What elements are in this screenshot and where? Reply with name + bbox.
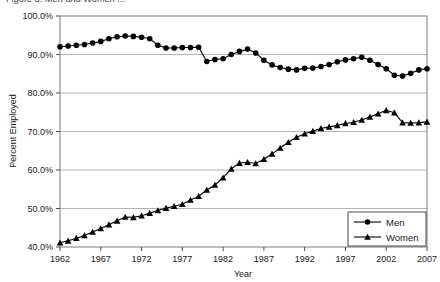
datapoint-men-2006 — [416, 67, 422, 73]
datapoint-men-2007 — [424, 66, 430, 72]
y-tick-label-90: 90.0% — [27, 50, 53, 60]
datapoint-men-1987 — [261, 57, 267, 63]
datapoint-men-2002 — [383, 66, 389, 72]
datapoint-men-1978 — [188, 45, 194, 51]
datapoint-men-1990 — [286, 66, 292, 72]
datapoint-men-1980 — [204, 59, 210, 65]
datapoint-men-2004 — [400, 73, 406, 79]
y-tick-label-100: 100.0% — [22, 11, 53, 21]
figure-container: Figure 3. Men and Women ... 40.0%50.0%60… — [0, 0, 440, 282]
datapoint-men-1974 — [155, 42, 161, 48]
y-tick-label-60: 60.0% — [27, 165, 53, 175]
datapoint-men-1979 — [196, 44, 202, 50]
x-tick-label-2007: 2007 — [417, 254, 437, 264]
datapoint-men-1994 — [318, 64, 324, 70]
datapoint-men-1993 — [310, 65, 316, 71]
y-tick-label-50: 50.0% — [27, 204, 53, 214]
datapoint-men-1973 — [147, 36, 153, 42]
x-tick-label-1962: 1962 — [50, 254, 70, 264]
x-tick-label-1967: 1967 — [91, 254, 111, 264]
datapoint-men-2003 — [392, 72, 398, 78]
datapoint-men-1970 — [122, 33, 128, 39]
chart-legend[interactable]: MenWomen — [348, 212, 426, 246]
datapoint-men-1999 — [359, 54, 365, 60]
datapoint-men-1967 — [98, 39, 104, 45]
legend-label-men: Men — [386, 217, 404, 228]
legend-label-women: Women — [386, 232, 419, 243]
datapoint-men-1966 — [90, 40, 96, 46]
x-tick-label-2002: 2002 — [376, 254, 396, 264]
y-axis: 40.0%50.0%60.0%70.0%80.0%90.0%100.0% — [22, 11, 60, 252]
datapoint-men-1968 — [106, 36, 112, 42]
datapoint-men-1985 — [245, 46, 251, 52]
y-axis-title: Percent Employed — [8, 94, 18, 168]
datapoint-men-1981 — [212, 57, 218, 63]
y-tick-label-70: 70.0% — [27, 127, 53, 137]
y-tick-label-80: 80.0% — [27, 88, 53, 98]
datapoint-men-1969 — [114, 34, 120, 40]
datapoint-men-1997 — [343, 57, 349, 63]
x-tick-label-1987: 1987 — [254, 254, 274, 264]
datapoint-men-2001 — [375, 62, 381, 68]
datapoint-men-1982 — [220, 56, 226, 62]
datapoint-men-1998 — [351, 56, 357, 62]
x-tick-label-1992: 1992 — [295, 254, 315, 264]
datapoint-men-1972 — [139, 34, 145, 40]
x-axis-title: Year — [234, 269, 252, 279]
datapoint-men-1964 — [74, 42, 80, 48]
x-tick-label-1972: 1972 — [132, 254, 152, 264]
datapoint-men-1962 — [57, 44, 63, 50]
x-tick-label-1977: 1977 — [172, 254, 192, 264]
x-axis: 1962196719721977198219871992199720022007 — [50, 247, 437, 264]
employment-rate-line-chart: 40.0%50.0%60.0%70.0%80.0%90.0%100.0% 196… — [0, 0, 440, 282]
datapoint-men-2005 — [408, 71, 414, 77]
x-tick-label-1997: 1997 — [335, 254, 355, 264]
x-tick-label-1982: 1982 — [213, 254, 233, 264]
datapoint-men-1963 — [65, 43, 71, 49]
datapoint-men-1988 — [269, 62, 275, 68]
datapoint-men-1971 — [131, 34, 137, 40]
datapoint-men-1996 — [334, 59, 340, 65]
datapoint-men-1965 — [82, 42, 88, 48]
clipped-header-text: Figure 3. Men and Women ... — [6, 0, 125, 4]
datapoint-men-1983 — [228, 52, 234, 58]
datapoint-men-1989 — [277, 65, 283, 71]
y-tick-label-40: 40.0% — [27, 242, 53, 252]
datapoint-men-1991 — [294, 67, 300, 73]
datapoint-men-1984 — [237, 49, 243, 55]
datapoint-men-1977 — [180, 45, 186, 51]
datapoint-men-1995 — [326, 62, 332, 68]
datapoint-men-1992 — [302, 66, 308, 72]
datapoint-men-1986 — [253, 50, 259, 56]
datapoint-men-2000 — [367, 57, 373, 63]
datapoint-men-1976 — [171, 45, 177, 51]
datapoint-men-1975 — [163, 45, 169, 51]
legend-marker-men — [365, 219, 371, 225]
